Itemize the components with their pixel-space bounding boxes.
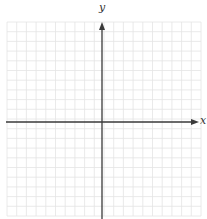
x-axis-label: x — [200, 114, 206, 127]
axes — [6, 22, 199, 219]
x-axis-arrow-icon — [191, 119, 199, 125]
coordinate-plane — [0, 0, 207, 219]
y-axis-label: y — [99, 1, 105, 14]
grid-lines — [7, 22, 201, 216]
